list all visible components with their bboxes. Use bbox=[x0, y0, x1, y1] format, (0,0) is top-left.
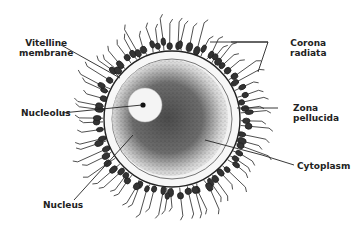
label-vitelline-membrane: Vitelline membrane bbox=[19, 38, 73, 58]
label-corona-radiata: Corona radiata bbox=[290, 38, 327, 58]
label-nucleolus: Nucleolus bbox=[21, 108, 71, 118]
ovum-diagram: Vitelline membrane Nucleolus Nucleus Cor… bbox=[0, 0, 361, 233]
label-nucleus: Nucleus bbox=[43, 200, 83, 210]
label-cytoplasm: Cytoplasm bbox=[297, 161, 350, 171]
label-zona-pellucida: Zona pellucida bbox=[293, 103, 339, 123]
